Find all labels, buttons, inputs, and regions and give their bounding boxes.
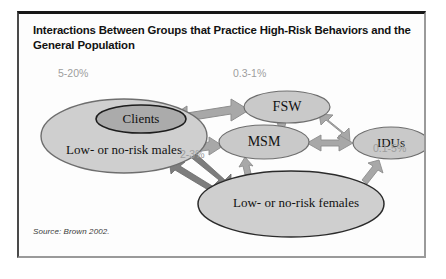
figure-container: Interactions Between Groups that Practic… xyxy=(0,0,446,279)
node-low-risk-males-label: Low- or no-risk males xyxy=(66,142,182,157)
diagram-canvas: Low- or no-risk males Clients FSW MSM ID… xyxy=(19,14,424,257)
node-msm[interactable]: MSM xyxy=(219,125,309,159)
label-fsw-prevalence: 0.3-1% xyxy=(233,67,266,79)
node-clients-label: Clients xyxy=(123,111,160,126)
edge-fsw-idus xyxy=(319,114,350,142)
figure-frame: Interactions Between Groups that Practic… xyxy=(17,11,426,258)
node-low-risk-females-label: Low- or no-risk females xyxy=(233,195,359,210)
figure-source: Source: Brown 2002. xyxy=(33,227,110,236)
node-low-risk-females[interactable]: Low- or no-risk females xyxy=(198,171,384,237)
node-fsw[interactable]: FSW xyxy=(244,91,330,123)
node-msm-label: MSM xyxy=(248,134,281,149)
node-fsw-label: FSW xyxy=(273,99,303,114)
label-clients-prevalence: 5-20% xyxy=(58,67,88,79)
label-idus-prevalence: 0.1-5% xyxy=(373,142,406,154)
label-females-prevalence: 2-3% xyxy=(180,148,205,160)
edge-idus-females xyxy=(362,160,383,184)
node-clients[interactable]: Clients xyxy=(96,105,186,133)
